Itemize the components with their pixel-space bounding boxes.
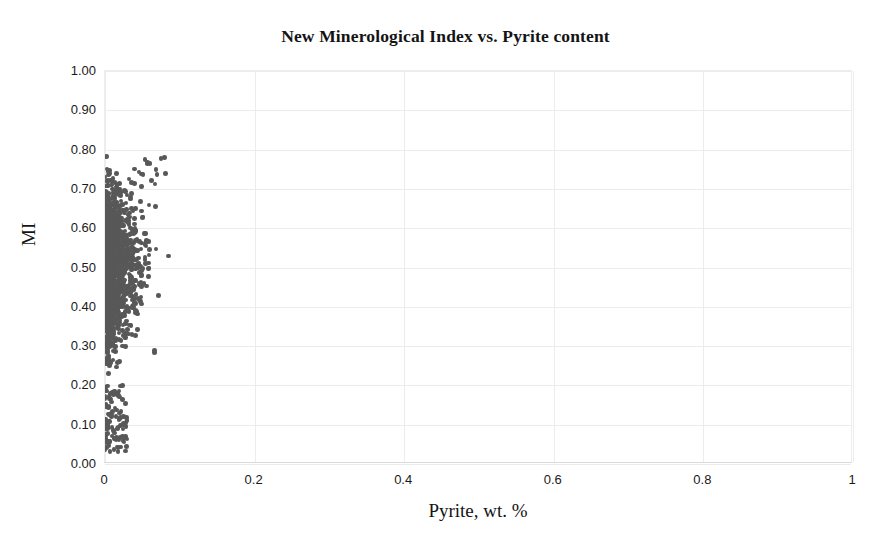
data-point <box>121 427 126 432</box>
data-point <box>123 449 128 454</box>
data-point <box>137 281 142 286</box>
y-tick-label: 0.20 <box>50 377 96 392</box>
data-point <box>153 204 158 209</box>
x-tick-label: 0 <box>69 472 139 487</box>
data-point <box>147 203 152 208</box>
data-point <box>106 272 111 277</box>
data-point <box>143 231 148 236</box>
data-point <box>105 426 110 431</box>
data-point <box>106 343 111 348</box>
data-point <box>106 443 111 448</box>
data-point <box>105 282 109 287</box>
y-axis-tick-labels: 0.000.100.200.300.400.500.600.700.800.90… <box>42 70 96 463</box>
data-point <box>121 202 126 207</box>
y-tick-label: 0.00 <box>50 456 96 471</box>
data-point <box>134 257 139 262</box>
data-point <box>116 268 121 273</box>
data-point <box>112 447 117 452</box>
data-point <box>130 332 135 337</box>
x-axis-tick-labels: 00.20.40.60.81 <box>104 472 852 494</box>
data-point <box>154 167 159 172</box>
data-point <box>110 259 115 264</box>
y-tick-label: 0.80 <box>50 141 96 156</box>
data-point <box>113 204 118 209</box>
data-point <box>114 336 119 341</box>
data-point <box>130 227 135 232</box>
data-point <box>117 181 122 186</box>
data-point <box>113 192 118 197</box>
data-point <box>147 247 152 252</box>
data-point <box>106 371 111 376</box>
data-point <box>145 160 150 165</box>
gridline-vertical <box>853 71 854 462</box>
plot-area <box>104 70 852 463</box>
data-point <box>108 334 113 339</box>
data-point <box>114 365 119 370</box>
data-point <box>107 171 112 176</box>
data-point <box>139 184 144 189</box>
data-point <box>141 172 146 177</box>
data-point <box>133 333 138 338</box>
chart-title: New Minerological Index vs. Pyrite conte… <box>0 26 891 47</box>
x-tick-label: 0.6 <box>518 472 588 487</box>
data-point <box>122 287 127 292</box>
data-point <box>124 444 129 449</box>
data-point <box>120 298 125 303</box>
data-point <box>115 360 120 365</box>
data-point <box>162 155 167 160</box>
data-point <box>108 296 113 301</box>
data-point <box>122 236 127 241</box>
data-point <box>119 338 124 343</box>
data-point <box>120 328 125 333</box>
data-point <box>125 437 130 442</box>
data-point <box>113 344 118 349</box>
data-point <box>105 222 110 227</box>
data-point <box>135 327 140 332</box>
data-point <box>115 254 120 259</box>
data-point <box>123 401 128 406</box>
data-point <box>121 414 126 419</box>
data-point <box>124 264 129 269</box>
scatter-points-layer <box>105 71 853 464</box>
data-point <box>143 261 148 266</box>
x-tick-label: 0.2 <box>219 472 289 487</box>
gridline-horizontal <box>105 464 851 465</box>
y-tick-label: 1.00 <box>50 63 96 78</box>
y-tick-label: 0.40 <box>50 298 96 313</box>
data-point <box>124 319 129 324</box>
y-tick-label: 0.10 <box>50 416 96 431</box>
data-point <box>138 199 143 204</box>
chart-figure: New Minerological Index vs. Pyrite conte… <box>0 0 891 552</box>
data-point <box>113 281 118 286</box>
y-tick-label: 0.60 <box>50 220 96 235</box>
data-point <box>116 449 121 454</box>
data-point <box>112 219 117 224</box>
data-point <box>166 254 171 259</box>
data-point <box>117 187 122 192</box>
data-point <box>110 187 115 192</box>
data-point <box>119 274 124 279</box>
data-point <box>134 292 139 297</box>
data-point <box>114 292 119 297</box>
data-point <box>121 421 126 426</box>
data-point <box>134 249 139 254</box>
data-point <box>163 171 168 176</box>
data-point <box>117 241 122 246</box>
data-point <box>146 274 151 279</box>
data-point <box>129 180 134 185</box>
data-point <box>120 223 125 228</box>
y-tick-label: 0.70 <box>50 180 96 195</box>
y-axis-title: MI <box>18 223 40 246</box>
data-point <box>117 217 122 222</box>
data-point <box>110 425 115 430</box>
data-point <box>113 317 118 322</box>
data-point <box>114 171 119 176</box>
data-point <box>117 389 122 394</box>
data-point <box>153 182 158 187</box>
data-point <box>133 308 138 313</box>
data-point <box>143 242 148 247</box>
data-point <box>105 361 109 366</box>
x-axis-title: Pyrite, wt. % <box>104 500 852 522</box>
data-point <box>115 393 120 398</box>
data-point <box>105 420 110 425</box>
